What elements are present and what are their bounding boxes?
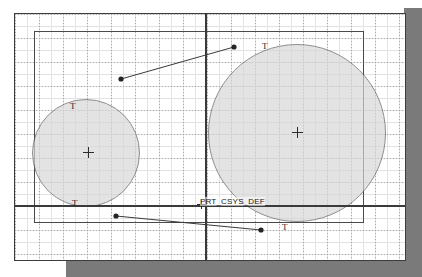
tangent-right-bottom-label: T [282,223,288,232]
leader-lower-end-dot[interactable] [258,227,263,232]
leader-upper-start-dot[interactable] [118,76,123,81]
leader-upper-line[interactable] [121,47,234,79]
sketch-window: T T T T PRT_CSYS_DEF [0,0,422,277]
window-shadow-right [404,8,422,277]
tangent-right-top-label: T [262,42,268,51]
tangent-left-top-label: T [70,102,76,111]
leader-lines [15,14,405,260]
leader-upper-end-dot[interactable] [231,44,236,49]
tangent-left-bottom-label: T [72,199,78,208]
leader-lower-start-dot[interactable] [113,213,118,218]
window-shadow-bottom [66,259,422,277]
csys-label: PRT_CSYS_DEF [200,197,265,206]
leader-lower-line[interactable] [116,216,261,230]
graphics-viewport[interactable]: T T T T PRT_CSYS_DEF [14,13,406,261]
